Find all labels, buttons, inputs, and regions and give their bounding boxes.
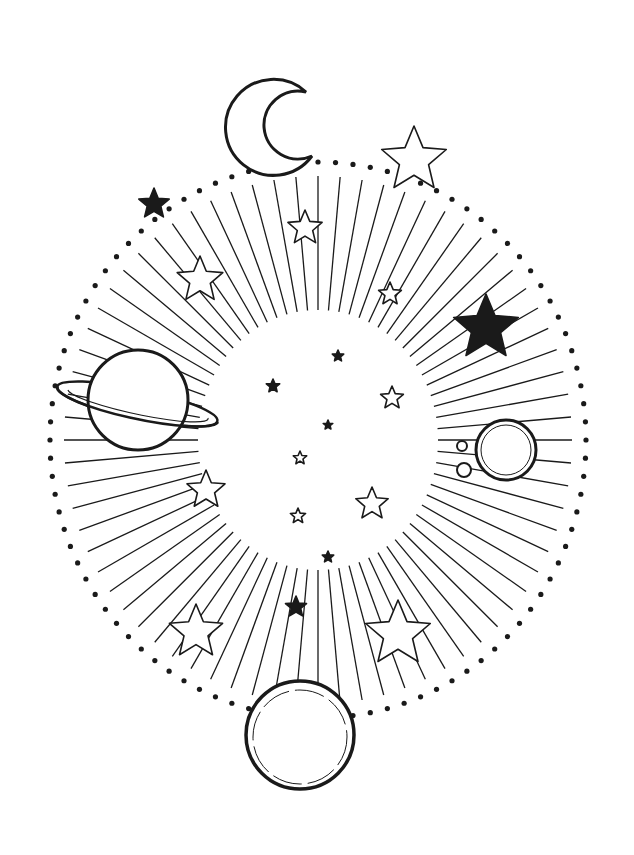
outline-star-icon xyxy=(177,256,223,299)
ray-line xyxy=(431,484,557,530)
planet-body xyxy=(246,681,354,789)
orbit-dot xyxy=(197,188,202,193)
ray-line xyxy=(79,484,205,530)
orbit-dot xyxy=(578,492,583,497)
outline-star-icon xyxy=(187,470,225,506)
orbit-dot xyxy=(505,241,510,246)
orbit-dot xyxy=(167,206,172,211)
orbit-dot xyxy=(556,560,561,565)
orbit-dot xyxy=(48,419,53,424)
orbit-dot xyxy=(434,687,439,692)
orbit-dot xyxy=(93,592,98,597)
celestial-illustration xyxy=(0,0,634,855)
orbit-dot xyxy=(517,254,522,259)
bottom-planet xyxy=(246,681,354,789)
orbit-dot xyxy=(68,331,73,336)
ray-line xyxy=(65,451,198,463)
orbit-dot xyxy=(229,701,234,706)
orbit-dot xyxy=(583,456,588,461)
orbit-dot xyxy=(556,314,561,319)
orbit-dot xyxy=(464,669,469,674)
orbit-dot xyxy=(57,509,62,514)
orbit-dot xyxy=(50,401,55,406)
orbit-dot xyxy=(464,206,469,211)
ray-line xyxy=(211,558,268,679)
orbit-dot xyxy=(547,576,552,581)
orbit-dot xyxy=(449,678,454,683)
orbit-dot xyxy=(167,669,172,674)
orbit-dot xyxy=(53,492,58,497)
orbit-dot xyxy=(368,165,373,170)
orbit-dot xyxy=(418,694,423,699)
orbit-dot xyxy=(563,544,568,549)
planet-body xyxy=(88,350,188,450)
outline-star-icon xyxy=(382,126,447,188)
ray-line xyxy=(410,524,513,610)
orbit-dot xyxy=(574,365,579,370)
orbit-dot xyxy=(57,365,62,370)
ray-line xyxy=(339,180,362,312)
orbit-dot xyxy=(47,437,52,442)
ray-line xyxy=(274,180,297,312)
ray-line xyxy=(123,524,226,610)
moon-shape xyxy=(226,79,312,175)
ray-line xyxy=(110,515,220,592)
orbit-dot xyxy=(528,268,533,273)
ray-line xyxy=(349,185,384,314)
ray-line xyxy=(231,562,277,688)
ray-line xyxy=(73,474,202,509)
orbit-dot xyxy=(385,169,390,174)
ray-line xyxy=(138,532,233,627)
small-moon xyxy=(457,463,471,477)
orbit-dot xyxy=(574,509,579,514)
filled-star-icon xyxy=(139,188,169,217)
ray-line xyxy=(231,192,277,318)
orbit-dot xyxy=(434,188,439,193)
orbit-dot xyxy=(569,527,574,532)
orbit-dot xyxy=(126,634,131,639)
orbit-dot xyxy=(139,228,144,233)
orbit-dot xyxy=(139,646,144,651)
orbit-dot xyxy=(197,687,202,692)
ray-line xyxy=(252,566,287,695)
ray-line xyxy=(387,224,464,334)
orbit-dot xyxy=(517,621,522,626)
ray-line xyxy=(296,177,308,310)
orbit-dot xyxy=(48,456,53,461)
orbit-dot xyxy=(83,576,88,581)
right-planet xyxy=(457,420,536,480)
filled-star-icon xyxy=(266,379,279,392)
outline-star-icon xyxy=(356,487,388,518)
orbit-dot xyxy=(479,658,484,663)
outline-star-icon xyxy=(366,600,431,662)
stars-group xyxy=(139,126,519,662)
orbit-dot xyxy=(213,694,218,699)
orbit-dot xyxy=(75,560,80,565)
orbit-dot xyxy=(68,544,73,549)
ray-line xyxy=(378,211,445,327)
ray-line xyxy=(431,350,557,396)
orbit-dot xyxy=(315,159,320,164)
orbit-dot xyxy=(368,710,373,715)
ray-line xyxy=(191,553,258,669)
filled-star-icon xyxy=(322,551,333,562)
orbit-dot xyxy=(492,646,497,651)
outline-star-icon xyxy=(293,451,306,464)
orbit-dot xyxy=(505,634,510,639)
orbit-dot xyxy=(62,348,67,353)
ray-line xyxy=(252,185,287,314)
orbit-dot xyxy=(479,217,484,222)
crescent-moon xyxy=(226,79,312,175)
orbit-dot xyxy=(350,162,355,167)
orbit-dot xyxy=(333,160,338,165)
orbit-dot xyxy=(93,283,98,288)
outline-star-icon xyxy=(290,508,305,523)
filled-star-icon xyxy=(332,350,343,361)
ray-line xyxy=(328,570,340,703)
orbit-dot xyxy=(114,621,119,626)
orbit-dot xyxy=(114,254,119,259)
orbit-dot xyxy=(62,527,67,532)
ray-line xyxy=(211,201,268,322)
orbit-dot xyxy=(152,658,157,663)
orbit-dot xyxy=(402,701,407,706)
